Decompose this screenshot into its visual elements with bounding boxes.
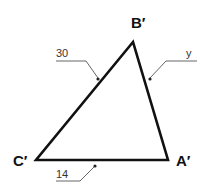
leader-dot — [148, 77, 151, 80]
side-label-ca: 14 — [56, 164, 97, 181]
triangle-figure: B′ C′ A′ 30 y 14 — [0, 0, 207, 189]
side-label-cb: 30 — [56, 47, 100, 81]
side-length-label: y — [186, 47, 192, 59]
side-length-label: 14 — [56, 168, 68, 180]
vertex-label-a: A′ — [176, 152, 191, 169]
side-label-ba: y — [148, 47, 197, 81]
triangle-shape — [36, 42, 168, 160]
leader-dot — [93, 164, 96, 167]
vertex-label-c: C′ — [13, 152, 28, 169]
side-length-label: 30 — [56, 47, 68, 59]
triangle-diagram: B′ C′ A′ 30 y 14 — [0, 0, 207, 189]
leader-line — [150, 61, 197, 78]
leader-dot — [96, 77, 99, 80]
leader-line — [56, 61, 98, 78]
vertex-label-b: B′ — [131, 14, 146, 31]
